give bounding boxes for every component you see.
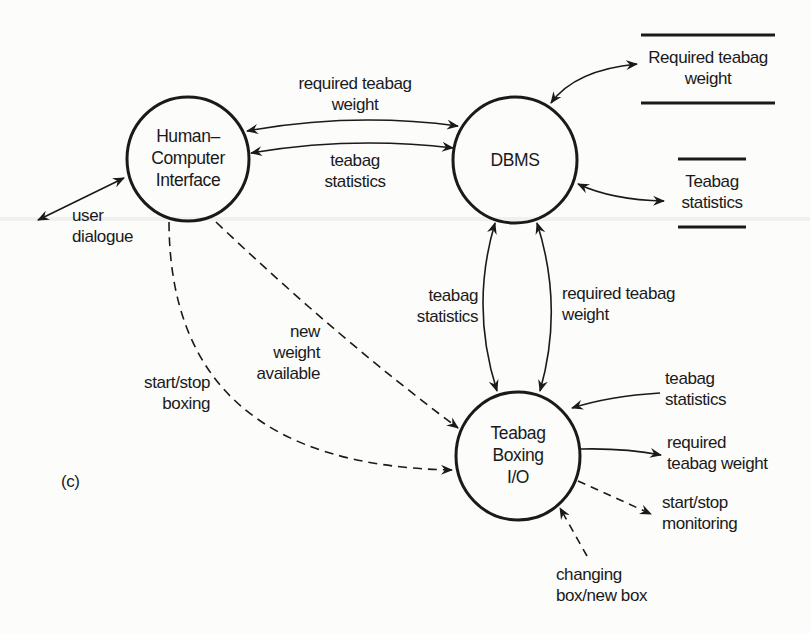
process-boxing-io-label: Teabag Boxing I/O bbox=[468, 422, 568, 488]
flow-dbms-required-store-arrow bbox=[551, 64, 637, 103]
flow-boxing-in-statistics-arrow bbox=[572, 393, 660, 408]
flow-dbms-boxing-statistics-arrow bbox=[483, 223, 497, 391]
flow-start-stop-monitoring-label: start/stop monitoring bbox=[662, 492, 737, 534]
flow-boxing-out-required-weight-arrow bbox=[581, 449, 661, 455]
data-flow-diagram: Human– Computer Interface DBMS Teabag Bo… bbox=[0, 0, 810, 634]
flow-hci-dbms-statistics-label: teabag statistics bbox=[305, 150, 405, 192]
flow-start-stop-boxing-label: start/stop boxing bbox=[110, 372, 210, 414]
store-statistics-label: Teabag statistics bbox=[662, 171, 762, 213]
flow-boxing-out-required-weight-label: required teabag weight bbox=[667, 432, 768, 474]
flow-dbms-boxing-required-weight-label: required teabag weight bbox=[562, 283, 675, 325]
flow-changing-box-label: changing box/new box bbox=[556, 564, 647, 606]
flow-boxing-in-statistics-label: teabag statistics bbox=[665, 368, 726, 410]
panel-label: (c) bbox=[61, 471, 80, 492]
process-dbms-label: DBMS bbox=[465, 149, 565, 171]
store-required-weight-label: Required teabag weight bbox=[638, 47, 778, 89]
flow-new-weight-available-label: new weight available bbox=[230, 321, 320, 384]
flow-user-dialogue-label: user dialogue bbox=[72, 205, 133, 247]
flow-hci-dbms-required-weight-label: required teabag weight bbox=[290, 73, 420, 115]
flow-dbms-boxing-required-weight-arrow bbox=[537, 223, 551, 391]
process-hci-label: Human– Computer Interface bbox=[138, 125, 238, 191]
flow-hci-dbms-required-weight-arrow bbox=[247, 120, 458, 131]
flow-dbms-statistics-store-arrow bbox=[578, 184, 664, 201]
flow-dbms-boxing-statistics-label: teabag statistics bbox=[390, 285, 478, 327]
flow-changing-box-arrow bbox=[560, 508, 587, 556]
flow-start-stop-monitoring-arrow bbox=[578, 481, 651, 514]
